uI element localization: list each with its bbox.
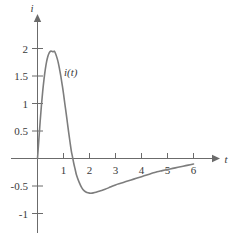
y-tick-label-neg1: -1 bbox=[19, 208, 28, 220]
x-tick-label-3: 3 bbox=[113, 164, 119, 176]
y-tick-label-1: 1 bbox=[23, 98, 29, 110]
x-tick-label-1: 1 bbox=[61, 164, 67, 176]
chart-figure: 1 2 3 4 5 6 2 1.5 1 0.5 -0.5 -1 i t i(t) bbox=[0, 0, 233, 241]
y-axis-label: i bbox=[30, 2, 33, 14]
y-tick-label-0p5: 0.5 bbox=[14, 125, 28, 137]
x-axis-arrow-icon bbox=[212, 155, 220, 162]
y-tick-label-1p5: 1.5 bbox=[14, 70, 28, 82]
curve-annotation-label: i(t) bbox=[64, 66, 78, 79]
y-tick-label-neg0p5: -0.5 bbox=[11, 180, 29, 192]
x-axis-ticks bbox=[64, 153, 194, 159]
x-tick-label-4: 4 bbox=[139, 164, 145, 176]
x-tick-label-2: 2 bbox=[87, 164, 93, 176]
chart-plot-area: 1 2 3 4 5 6 2 1.5 1 0.5 -0.5 -1 i t i(t) bbox=[0, 0, 233, 241]
y-axis-arrow-icon bbox=[34, 14, 41, 22]
x-axis-label: t bbox=[224, 153, 228, 165]
y-tick-label-2: 2 bbox=[23, 43, 29, 55]
x-tick-label-6: 6 bbox=[191, 164, 197, 176]
